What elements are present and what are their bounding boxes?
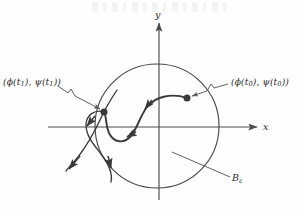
epsilon-ball-circle [95,64,219,188]
ball-label-base: B [232,172,239,183]
label-t0-phi: ϕ(t [235,76,249,87]
label-point-t0: (ϕ(t0), ψ(t0)) [231,77,289,88]
label-t0-psi: ψ(t [263,76,278,87]
label-t0-close: )) [282,76,289,87]
label-epsilon-ball: Bε [232,173,243,184]
marker-point-t0 [184,95,191,102]
ball-label-subscript: ε [239,177,243,185]
label-t1-mid: ), [25,76,35,87]
y-axis-label: y [155,10,160,20]
direction-arrow-1 [145,100,152,109]
leader-line-ball [172,152,230,177]
marker-point-t1 [101,109,108,116]
label-point-t1: (ϕ(t1), ψ(t1)) [3,77,61,88]
direction-arrow-5 [69,156,80,169]
leader-line-t1 [58,86,100,109]
label-t1-phi: ϕ(t [7,76,21,87]
x-axis-label: x [263,122,268,132]
figure-canvas [0,0,297,211]
label-t1-psi: ψ(t [35,76,50,87]
figure-container: y x (ϕ(t1), ψ(t1)) (ϕ(t0), ψ(t0)) Bε [0,0,297,211]
label-t0-mid: ), [253,76,263,87]
trajectory-curve [104,96,187,142]
label-t1-close: )) [54,76,61,87]
